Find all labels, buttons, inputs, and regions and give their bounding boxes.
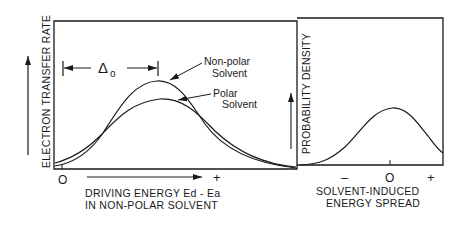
left-panel: ELECTRON TRANSFER RATE Δ o Non-polar Sol… bbox=[28, 15, 297, 211]
delta-bracket: Δ o bbox=[63, 59, 158, 79]
nonpolar-label-line2: Solvent bbox=[212, 67, 247, 79]
prob-x-tick-minus: – bbox=[341, 170, 349, 185]
delta-label: Δ bbox=[98, 59, 108, 76]
prob-x-tick-plus: + bbox=[427, 170, 435, 185]
polar-solvent-curve bbox=[55, 99, 296, 167]
polar-label-line2: Solvent bbox=[222, 98, 257, 110]
delta-subscript: o bbox=[110, 68, 116, 79]
prob-x-tick-zero: O bbox=[385, 171, 394, 185]
right-panel: PROBABILITY DENSITY – O + SOLVENT-INDUCE… bbox=[291, 18, 443, 209]
x-axis-label-line1: DRIVING ENERGY Ed - Ea bbox=[85, 187, 220, 199]
nonpolar-pointer-arrow-icon bbox=[170, 63, 202, 80]
energy-spread-curve bbox=[300, 108, 443, 165]
prob-x-axis-label-line1: SOLVENT-INDUCED bbox=[316, 185, 420, 197]
electron-transfer-figure: ELECTRON TRANSFER RATE Δ o Non-polar Sol… bbox=[0, 0, 466, 225]
left-plot-frame bbox=[54, 21, 297, 169]
x-tick-plus: + bbox=[213, 170, 221, 185]
nonpolar-label-line1: Non-polar bbox=[204, 55, 251, 67]
nonpolar-solvent-curve bbox=[55, 81, 296, 168]
polar-pointer-arrow-icon bbox=[178, 94, 211, 100]
prob-y-axis-label: PROBABILITY DENSITY bbox=[300, 33, 312, 154]
x-tick-zero: O bbox=[58, 173, 67, 187]
y-axis-label: ELECTRON TRANSFER RATE bbox=[40, 15, 52, 168]
prob-x-axis-label-line2: ENERGY SPREAD bbox=[326, 197, 420, 209]
x-axis-label-line2: IN NON-POLAR SOLVENT bbox=[85, 199, 218, 211]
right-plot-frame bbox=[297, 18, 443, 165]
